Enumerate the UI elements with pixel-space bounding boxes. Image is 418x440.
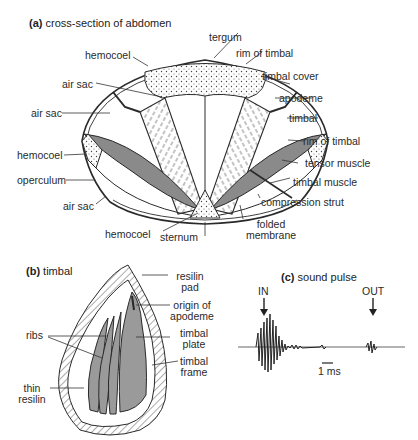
label-scale-1ms: 1 ms <box>318 366 341 377</box>
label-thin-resilin: thinresilin <box>15 383 49 405</box>
label-air-sac-upper: air sac <box>62 79 93 90</box>
label-apodeme: apodeme <box>279 93 323 104</box>
label-rim-of-timbal-right: rim of timbal <box>303 136 360 147</box>
panel-c-tag: (c) <box>281 271 294 283</box>
label-compression-strut: compression strut <box>261 197 344 208</box>
label-timbal-muscle: timbal muscle <box>293 177 357 188</box>
label-timbal-plate: timbalplate <box>176 328 212 350</box>
label-origin-of-apodeme: origin ofapodeme <box>166 300 218 322</box>
label-rim-of-timbal-top: rim of timbal <box>236 48 293 59</box>
label-out: OUT <box>362 286 384 297</box>
panel-c-title: (c) sound pulse <box>281 271 357 283</box>
label-tergum: tergum <box>209 32 242 43</box>
label-in: IN <box>258 286 269 297</box>
label-folded-membrane: foldedmembrane <box>243 219 299 241</box>
sound-pulse-trace <box>238 298 405 372</box>
label-tensor-muscle: tensor muscle <box>305 158 370 169</box>
label-hemocoel-top: hemocoel <box>85 50 131 61</box>
panel-b-tag: (b) <box>26 265 40 277</box>
timbal-drawing <box>59 265 167 435</box>
pulse-waveform <box>256 314 326 372</box>
label-resilin-pad: resilinpad <box>168 271 212 293</box>
panel-a-title: (a) cross-section of abdomen <box>29 17 171 29</box>
label-hemocoel-left: hemocoel <box>17 150 63 161</box>
panel-a-tag: (a) <box>29 17 42 29</box>
label-air-sac-left: air sac <box>31 108 62 119</box>
label-air-sac-lower: air sac <box>63 201 94 212</box>
label-ribs: ribs <box>26 330 43 341</box>
label-operculum: operculum <box>17 175 66 186</box>
label-sternum: sternum <box>160 232 198 243</box>
label-timbal: timbal <box>289 113 317 124</box>
dorsal-hemocoel <box>145 64 266 99</box>
label-timbal-frame: timbalframe <box>176 356 212 378</box>
label-timbal-cover: timbal cover <box>262 71 319 82</box>
panel-a-title-text: cross-section of abdomen <box>46 17 172 29</box>
label-hemocoel-bottom: hemocoel <box>105 229 151 240</box>
panel-b-title: (b) timbal <box>26 265 72 277</box>
